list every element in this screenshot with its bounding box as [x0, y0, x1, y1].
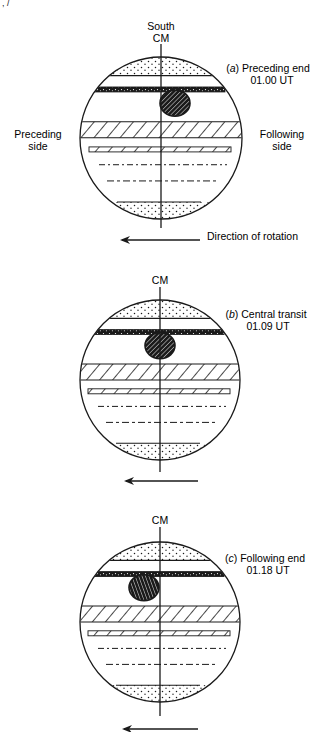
fig-a-caption-title: Preceding end: [242, 62, 310, 74]
fig-a-right-label-1: Following: [260, 128, 305, 140]
fig-a-caption-letter: a: [230, 62, 236, 74]
jupiter-figure-c: [80, 527, 240, 732]
jupiter-figure-b: [80, 287, 240, 485]
fig-b-caption: (b) Central transit: [225, 308, 306, 320]
fig-b-caption-time: 01.09 UT: [246, 320, 290, 332]
thin-belt: [88, 631, 230, 636]
fig-a-left-label-1: Preceding: [14, 128, 61, 140]
fig-c-cm-label: CM: [152, 514, 168, 526]
dark-belt: [93, 87, 225, 92]
fig-c-caption-letter: c: [229, 552, 235, 564]
fig-c-caption: (c) Following end: [225, 552, 305, 564]
rotation-direction-label: Direction of rotation: [207, 230, 298, 242]
fig-a-left-label-2: side: [28, 140, 47, 152]
fig-a-cm-label: CM: [153, 32, 169, 44]
red-spot: [129, 575, 159, 601]
fig-c-caption-time: 01.18 UT: [246, 564, 290, 576]
fig-a-south-label: South: [147, 20, 175, 32]
fig-b-caption-letter: b: [229, 308, 235, 320]
fig-c-caption-title: Following end: [240, 552, 305, 564]
red-spot: [160, 90, 190, 116]
fig-b-cm-label: CM: [152, 274, 168, 286]
thin-belt: [88, 389, 230, 394]
fig-a-caption: (a) Preceding end: [226, 62, 310, 74]
thin-belt: [89, 147, 231, 152]
jupiter-figure-a: [80, 44, 242, 244]
jupiter-rotation-diagram: , / South CM (a) Preceding end 01.00 UT …: [0, 0, 329, 732]
fig-a-right-label-2: side: [272, 140, 291, 152]
fig-a-caption-time: 01.00 UT: [250, 74, 294, 86]
fig-b-caption-title: Central transit: [241, 308, 306, 320]
corner-fragment: , /: [2, 0, 10, 8]
dark-belt: [92, 572, 224, 577]
